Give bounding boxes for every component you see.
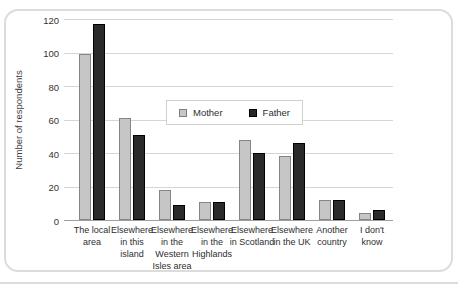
- bar-mother-5: [239, 140, 251, 220]
- gridline: [64, 187, 393, 188]
- bar-mother-6: [279, 156, 291, 220]
- x-category-label: I don't know: [349, 224, 395, 248]
- y-tick-label: 40: [22, 149, 59, 160]
- y-tick-label: 120: [22, 15, 59, 26]
- bar-father-1: [93, 24, 105, 220]
- page-divider-line: [0, 282, 458, 284]
- bar-mother-3: [159, 190, 171, 220]
- y-tick-label: 100: [22, 48, 59, 59]
- gridline: [64, 53, 393, 54]
- bar-father-5: [253, 153, 265, 220]
- bar-mother-2: [119, 118, 131, 220]
- y-tick-label: 60: [22, 115, 59, 126]
- bar-mother-4: [199, 202, 211, 220]
- legend-label-father: Father: [263, 107, 290, 118]
- bar-mother-7: [319, 200, 331, 220]
- legend-swatch-mother-icon: [179, 109, 187, 117]
- bar-mother-8: [359, 213, 371, 220]
- bar-father-6: [293, 143, 305, 220]
- bar-father-8: [373, 210, 385, 220]
- bar-father-7: [333, 200, 345, 220]
- y-tick-label: 80: [22, 82, 59, 93]
- gridline: [64, 86, 393, 87]
- y-tick-label: 20: [22, 182, 59, 193]
- x-axis-line: [64, 220, 393, 221]
- legend: Mother Father: [166, 100, 303, 125]
- bar-father-3: [173, 205, 185, 220]
- bar-father-2: [133, 135, 145, 220]
- gridline: [64, 19, 393, 20]
- y-tick-label: 0: [22, 216, 59, 227]
- chart-container: Number of respondents 020406080100120 Th…: [4, 9, 453, 272]
- bar-mother-1: [79, 54, 91, 220]
- legend-label-mother: Mother: [193, 107, 223, 118]
- bar-father-4: [213, 202, 225, 220]
- legend-swatch-father-icon: [249, 109, 257, 117]
- gridline: [64, 153, 393, 154]
